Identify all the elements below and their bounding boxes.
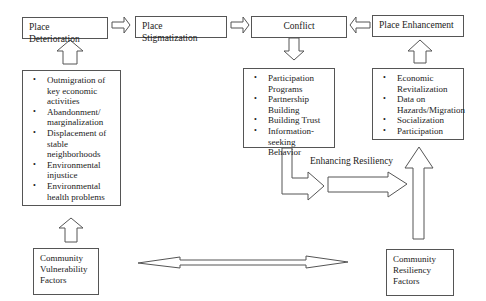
list-item: Economic Revitalization: [381, 73, 459, 94]
line: Factors: [393, 276, 447, 287]
arrow-up-icon: [405, 147, 433, 239]
arrow-left-icon: [350, 17, 370, 33]
conflict-strategies-box: Participation ProgramsPartnership Buildi…: [243, 68, 335, 148]
list-item: Data on Hazards/Migration: [381, 94, 459, 115]
list-item: Building Trust: [252, 115, 330, 126]
vulnerability-list: Outmigration of key economic activitiesA…: [23, 71, 120, 206]
place-stigmatization-box: Place Stigmatization: [135, 16, 227, 38]
place-enhancement-box: Place Enhancement: [372, 15, 464, 37]
list-item: Socialization: [381, 115, 459, 126]
conflict-box: Conflict: [251, 16, 347, 38]
list-item: Environmental injustice: [31, 160, 116, 181]
list-item: Abandonment/ marginalization: [31, 107, 116, 128]
arrow-up-icon: [408, 40, 432, 63]
arrow-down-icon: [284, 38, 304, 60]
conflict-strategies-list: Participation ProgramsPartnership Buildi…: [244, 69, 334, 162]
enhancement-outcomes-list: Economic RevitalizationData on Hazards/M…: [373, 69, 463, 141]
community-resiliency-factors-box: Community Resiliency Factors: [386, 249, 454, 296]
place-deterioration-box: Place Deterioration: [22, 17, 108, 39]
box-label: Place Stigmatization: [142, 21, 197, 43]
list-item: Partnership Building: [252, 94, 330, 115]
arrow-right-icon: [231, 17, 249, 33]
line: Resiliency: [393, 265, 447, 276]
arrow-up-icon: [59, 218, 83, 242]
arrow-double-icon: [138, 256, 348, 268]
list-item: Participation: [381, 126, 459, 137]
arrow-right-icon: [112, 17, 130, 33]
enhancing-resiliency-label: Enhancing Resiliency: [310, 156, 393, 166]
list-item: Displacement of stable neighborhoods: [31, 128, 116, 160]
box-label: Place Deterioration: [29, 22, 80, 44]
line: Community: [40, 253, 92, 264]
list-item: Information-seeking Behavior: [252, 126, 330, 158]
vulnerability-list-box: Outmigration of key economic activitiesA…: [22, 70, 121, 206]
list-item: Outmigration of key economic activities: [31, 75, 116, 107]
list-item: Environmental health problems: [31, 181, 116, 202]
box-label: Conflict: [283, 21, 314, 31]
enhancement-outcomes-box: Economic RevitalizationData on Hazards/M…: [372, 68, 464, 140]
box-label: Place Enhancement: [379, 20, 454, 30]
line: Factors: [40, 275, 92, 286]
list-item: Participation Programs: [252, 73, 330, 94]
arrow-right-icon: [328, 172, 407, 197]
community-vulnerability-factors-box: Community Vulnerability Factors: [33, 248, 99, 295]
line: Vulnerability: [40, 264, 92, 275]
line: Community: [393, 254, 447, 265]
